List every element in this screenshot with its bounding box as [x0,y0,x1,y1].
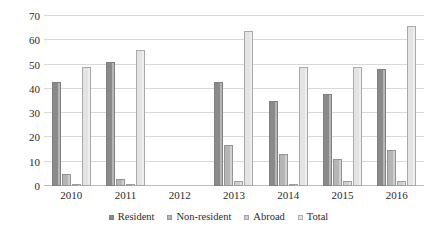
bar-fill [397,181,406,186]
y-tick-label: 0 [14,181,40,192]
x-axis: 2010201120122013201420152016 [44,190,424,201]
bar-total-2014 [299,67,308,186]
y-tick-label: 50 [14,59,40,70]
plot-area [44,16,424,186]
bar-abroad-2010 [72,184,81,186]
bar-total-2011 [136,50,145,186]
bar-fill [323,94,332,186]
bar-fill [333,159,342,186]
bar-fill [244,31,253,186]
legend-label: Abroad [253,212,285,223]
bar-resident-2016 [377,69,386,186]
bar-group-2016 [370,16,424,186]
bar-total-2010 [82,67,91,186]
bar-fill [116,179,125,186]
bar-abroad-2011 [126,184,135,186]
x-tick-label-2014: 2014 [261,190,315,201]
bar-groups [44,16,424,186]
bar-abroad-2016 [397,181,406,186]
bar-non-resident-2011 [116,179,125,186]
bar-fill [126,184,135,186]
legend-swatch-icon [109,215,114,220]
y-tick-label: 70 [14,11,40,22]
y-tick-label: 10 [14,156,40,167]
chart-legend: ResidentNon-residentAbroadTotal [0,212,437,223]
x-tick-label-2015: 2015 [315,190,369,201]
bar-resident-2015 [323,94,332,186]
bar-resident-2010 [52,82,61,186]
legend-swatch-icon [298,215,303,220]
x-tick-label-2013: 2013 [207,190,261,201]
bar-fill [136,50,145,186]
y-tick-label: 30 [14,108,40,119]
bar-fill [106,62,115,186]
legend-swatch-icon [167,215,172,220]
bar-group-2014 [261,16,315,186]
bar-total-2013 [244,31,253,186]
bar-fill [343,181,352,186]
bar-fill [52,82,61,186]
bar-fill [353,67,362,186]
bar-chart: 010203040506070 201020112012201320142015… [0,0,437,242]
legend-item-non-resident[interactable]: Non-resident [167,212,231,223]
legend-label: Total [307,212,328,223]
bar-fill [62,174,71,186]
bar-fill [82,67,91,186]
bar-non-resident-2013 [224,145,233,186]
bar-fill [407,26,416,186]
bar-abroad-2013 [234,181,243,186]
y-axis: 010203040506070 [10,16,40,186]
bar-fill [234,181,243,186]
bar-group-2015 [315,16,369,186]
bar-fill [377,69,386,186]
legend-swatch-icon [244,215,249,220]
y-tick-label: 40 [14,83,40,94]
bar-fill [72,184,81,186]
x-tick-label-2016: 2016 [370,190,424,201]
bar-fill [269,101,278,186]
bar-group-2011 [98,16,152,186]
bar-fill [224,145,233,186]
legend-label: Non-resident [176,212,231,223]
legend-item-resident[interactable]: Resident [109,212,155,223]
bar-non-resident-2010 [62,174,71,186]
bar-total-2016 [407,26,416,186]
bar-total-2015 [353,67,362,186]
bar-fill [214,82,223,186]
bar-fill [299,67,308,186]
bar-non-resident-2016 [387,150,396,186]
legend-item-total[interactable]: Total [298,212,328,223]
bar-group-2012 [153,16,207,186]
y-tick-label: 20 [14,132,40,143]
legend-label: Resident [118,212,155,223]
bar-fill [387,150,396,186]
bar-abroad-2014 [289,184,298,186]
y-tick-label: 60 [14,35,40,46]
bar-non-resident-2015 [333,159,342,186]
bar-abroad-2015 [343,181,352,186]
bar-fill [289,184,298,186]
bar-non-resident-2014 [279,154,288,186]
bar-resident-2011 [106,62,115,186]
x-tick-label-2012: 2012 [153,190,207,201]
bar-group-2013 [207,16,261,186]
bar-resident-2013 [214,82,223,186]
bar-resident-2014 [269,101,278,186]
x-tick-label-2010: 2010 [44,190,98,201]
x-tick-label-2011: 2011 [98,190,152,201]
bar-fill [279,154,288,186]
bar-group-2010 [44,16,98,186]
legend-item-abroad[interactable]: Abroad [244,212,285,223]
